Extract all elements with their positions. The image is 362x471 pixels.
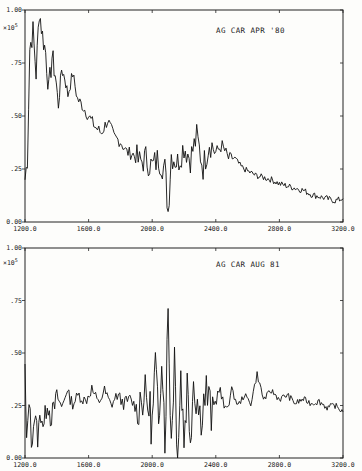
x-tick-label: 1200.0 <box>13 461 37 469</box>
top-y-axis: 0.00.25.50.751.00 <box>6 6 343 226</box>
x-tick-label: 2400.0 <box>204 225 228 233</box>
top-spectrum-trace <box>25 19 343 212</box>
y-tick-label: .50 <box>10 349 22 357</box>
x-tick-label: 1200.0 <box>13 225 37 233</box>
y-tick-label: .75 <box>10 297 22 305</box>
x-tick-label: 3200.0 <box>331 461 355 469</box>
bottom-chart-title: AG CAR AUG 81 <box>216 260 280 269</box>
x-tick-label: 2000.0 <box>140 461 164 469</box>
y-tick-label: .75 <box>10 59 22 67</box>
top-panel: 0.00.25.50.751.00 1200.01600.02000.02400… <box>3 6 355 233</box>
y-tick-label: 1.00 <box>6 6 22 14</box>
y-tick-label: .50 <box>10 112 22 120</box>
x-tick-label: 1600.0 <box>77 461 101 469</box>
x-tick-label: 2800.0 <box>268 461 292 469</box>
x-tick-label: 3200.0 <box>331 225 355 233</box>
y-tick-label: .25 <box>10 402 22 410</box>
x-tick-label: 2000.0 <box>140 225 164 233</box>
top-x-axis: 1200.01600.02000.02400.02800.03200.0 <box>13 10 355 233</box>
top-chart-title: AG CAR APR '80 <box>216 26 285 35</box>
bottom-plot-frame <box>25 248 343 458</box>
y-tick-label: 1.00 <box>6 244 22 252</box>
bottom-panel: 0.00.25.50.751.00 1200.01600.02000.02400… <box>3 244 355 469</box>
bottom-spectrum-trace <box>25 309 343 459</box>
spectrum-figure: 0.00.25.50.751.00 1200.01600.02000.02400… <box>0 0 362 471</box>
x-tick-label: 2400.0 <box>204 461 228 469</box>
top-plot-frame <box>25 10 343 222</box>
x-tick-label: 1600.0 <box>77 225 101 233</box>
top-y-multiplier: ×105 <box>3 22 18 32</box>
x-tick-label: 2800.0 <box>268 225 292 233</box>
y-tick-label: .25 <box>10 165 22 173</box>
bottom-y-multiplier: ×105 <box>3 257 18 267</box>
